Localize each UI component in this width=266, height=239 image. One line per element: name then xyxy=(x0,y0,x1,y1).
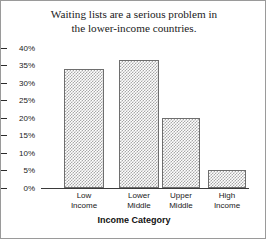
tick-dash-icon xyxy=(1,135,7,136)
y-axis-tick-label: 35% xyxy=(11,61,35,70)
y-axis-tick-30: 30% xyxy=(1,77,35,89)
y-axis-tick-20: 20% xyxy=(1,112,35,124)
y-axis-tick-label: 30% xyxy=(11,79,35,88)
bar-high-income[interactable] xyxy=(208,170,246,188)
category-label-line: High xyxy=(202,191,252,201)
y-axis-tick-0: 0% xyxy=(1,182,35,194)
x-axis-label-high-income: High Income xyxy=(202,191,252,211)
tick-dash-icon xyxy=(1,83,7,84)
tick-dash-icon xyxy=(1,188,7,189)
tick-dash-icon xyxy=(1,100,7,101)
tick-dash-icon xyxy=(1,153,7,154)
y-axis-tick-label: 10% xyxy=(11,149,35,158)
x-axis-label-low-income: Low Income xyxy=(59,191,109,211)
y-axis-tick-label: 15% xyxy=(11,131,35,140)
chart-title-line-2: the lower-income countries. xyxy=(27,22,241,36)
x-axis-baseline xyxy=(41,188,249,189)
category-label-line: Upper xyxy=(156,191,206,201)
tick-dash-icon xyxy=(1,118,7,119)
y-axis-tick-label: 0% xyxy=(11,184,35,193)
y-axis-tick-5: 5% xyxy=(1,165,35,177)
y-axis-tick-10: 10% xyxy=(1,147,35,159)
x-axis-title: Income Category xyxy=(1,215,266,225)
bar-lower-middle[interactable] xyxy=(119,60,159,188)
category-label-line: Middle xyxy=(156,201,206,211)
y-axis-tick-25: 25% xyxy=(1,95,35,107)
category-label-line: Low xyxy=(59,191,109,201)
y-axis-tick-35: 35% xyxy=(1,60,35,72)
tick-dash-icon xyxy=(1,170,7,171)
bar-low-income[interactable] xyxy=(64,69,104,188)
y-axis-tick-label: 20% xyxy=(11,114,35,123)
tick-dash-icon xyxy=(1,65,7,66)
y-axis-tick-label: 40% xyxy=(11,44,35,53)
x-axis-label-upper-middle: Upper Middle xyxy=(156,191,206,211)
tick-dash-icon xyxy=(1,48,7,49)
y-axis-tick-15: 15% xyxy=(1,130,35,142)
chart-title-line-1: Waiting lists are a serious problem in xyxy=(27,8,241,22)
bar-chart-figure: Waiting lists are a serious problem in t… xyxy=(0,0,266,239)
chart-title: Waiting lists are a serious problem in t… xyxy=(27,8,241,35)
category-label-line: Income xyxy=(202,201,252,211)
category-label-line: Income xyxy=(59,201,109,211)
y-axis-tick-label: 25% xyxy=(11,96,35,105)
bar-upper-middle[interactable] xyxy=(162,118,200,188)
y-axis-tick-40: 40% xyxy=(1,42,35,54)
y-axis-tick-label: 5% xyxy=(11,166,35,175)
